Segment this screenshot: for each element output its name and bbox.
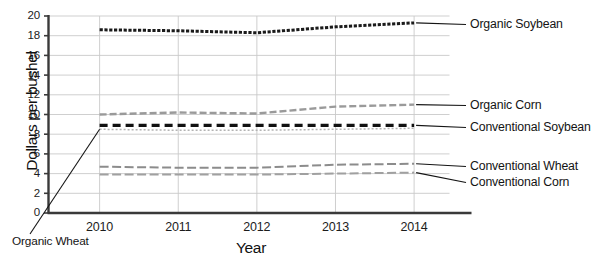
y-axis-title: Dollars per bushel	[24, 26, 40, 196]
series-label-organic-corn: Organic Corn	[470, 99, 541, 112]
x-tick-label-2014: 2014	[390, 221, 438, 234]
callout-line-organic-soybean	[416, 23, 466, 25]
series-label-organic-wheat: Organic Wheat	[12, 235, 89, 247]
series-label-organic-soybean: Organic Soybean	[470, 18, 563, 31]
x-tick-label-2012: 2012	[233, 221, 281, 234]
gridlines-horizontal	[49, 16, 450, 213]
callout-line-conventional-wheat	[416, 164, 466, 167]
callout-line-organic-corn	[416, 105, 466, 106]
series-label-conventional-wheat: Conventional Wheat	[470, 160, 578, 173]
callout-line-organic-wheat	[30, 129, 100, 234]
x-tick-label-2011: 2011	[154, 221, 202, 234]
x-axis-title: Year	[186, 240, 316, 256]
series-label-conventional-soybean: Conventional Soybean	[470, 121, 591, 134]
callout-line-conventional-corn	[416, 173, 466, 183]
series-label-conventional-corn: Conventional Corn	[470, 176, 569, 189]
y-tick-label-0: 0	[14, 207, 40, 219]
x-tick-label-2013: 2013	[311, 221, 359, 234]
x-tick-label-2010: 2010	[76, 221, 124, 234]
y-tick-label-20: 20	[14, 10, 40, 22]
callout-line-conventional-soybean	[416, 125, 466, 127]
